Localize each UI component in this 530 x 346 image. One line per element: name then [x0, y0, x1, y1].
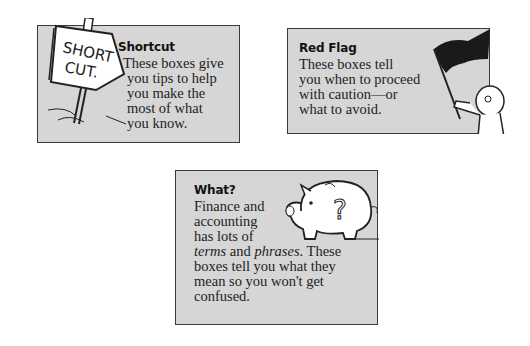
text-line: mean so you won't get [194, 274, 341, 289]
what-box: What? Finance and accounting has lots of… [175, 170, 378, 325]
text-line: you make the [123, 86, 224, 101]
text-line: you when to proceed [299, 72, 420, 87]
svg-text:?: ? [333, 195, 347, 225]
piggy-bank-question-icon: ? [281, 173, 381, 248]
text-line: with caution—or [299, 87, 420, 102]
red-flag-text: These boxes tell you when to proceed wit… [299, 57, 420, 117]
shortcut-title: Shortcut [118, 40, 175, 54]
text-line: boxes tell you what they [194, 259, 341, 274]
text-line: most of what [123, 101, 224, 116]
what-title: What? [194, 183, 236, 197]
text-line: These boxes give [123, 56, 224, 71]
text-line: These boxes tell [299, 57, 420, 72]
red-flag-title: Red Flag [299, 41, 357, 55]
red-flag-box: Red Flag These boxes tell you when to pr… [287, 28, 490, 134]
text-fragment: and [226, 243, 254, 259]
term-emphasis: terms [194, 243, 226, 259]
flag-waver-icon [408, 19, 508, 134]
shortcut-text: These boxes give you tips to help you ma… [123, 56, 224, 131]
shortcut-box: SHORT CUT. Shortcut These boxes give you… [37, 25, 240, 143]
text-line: you know. [123, 116, 224, 131]
text-line: confused. [194, 289, 341, 304]
text-line: you tips to help [123, 71, 224, 86]
text-line: what to avoid. [299, 102, 420, 117]
